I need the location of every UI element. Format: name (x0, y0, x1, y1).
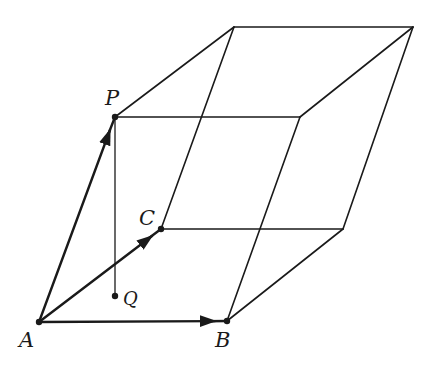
point-q (112, 293, 118, 299)
point-p (112, 114, 118, 120)
edge-front-right-vertical (227, 117, 300, 321)
parallelepiped-diagram: A B C P Q (0, 0, 435, 374)
point-b (224, 318, 230, 324)
point-a (36, 319, 42, 325)
edge-back-right-vertical (343, 27, 413, 229)
edge-back-left-vertical (161, 27, 234, 229)
edge-top-right (300, 27, 413, 117)
label-b: B (215, 330, 230, 351)
vector-ab (39, 321, 215, 322)
vector-ap-tail (106, 117, 115, 140)
vector-ap (39, 130, 110, 322)
label-p: P (105, 88, 119, 109)
point-c (158, 226, 164, 232)
edge-bottom-right (227, 229, 343, 321)
label-a: A (19, 330, 34, 351)
edge-top-left (115, 27, 234, 117)
label-c: C (139, 208, 155, 229)
diagram-lines (0, 0, 435, 374)
label-q: Q (123, 290, 138, 308)
